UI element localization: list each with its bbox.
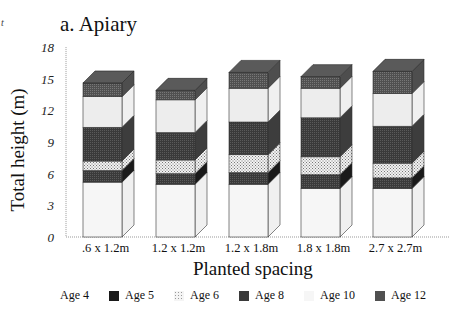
bar-segment-age-5 [229,173,268,185]
bar-segment-age-5 [156,174,195,185]
bar-1 [83,71,134,237]
chart-title: a. Apiary [60,12,137,37]
corner-mark: t [1,17,4,28]
bar-5 [373,59,424,237]
bars [83,59,424,237]
bar-segment-age-10 [229,88,268,122]
bar-segment-age-8 [83,127,122,161]
bar-segment-age-4 [156,184,195,237]
bar-segment-age-5 [373,178,412,189]
legend-label: Age 8 [255,288,284,303]
bar-4 [301,65,352,237]
bar-segment-age-4 [373,188,412,237]
legend-swatch [109,291,119,301]
bar-segment-age-12 [301,77,340,89]
bar-segment-age-8 [373,126,412,163]
legend-label: Age 12 [391,288,426,303]
bar-segment-age-12 [229,72,268,88]
bar-segment-age-6 [373,163,412,178]
legend-swatch [174,291,184,301]
legend-label: Age 5 [125,288,154,303]
legend-label: Age 6 [190,288,219,303]
legend-swatch [304,291,314,301]
bar-segment-age-10 [373,94,412,127]
bar-segment-age-12 [156,90,195,99]
y-tick-label: 15 [41,72,55,87]
bar-3 [229,60,280,237]
legend: Age 4Age 5Age 6Age 8Age 10Age 12 [44,288,446,303]
bar-2 [156,78,207,237]
x-tick-labels: .6 x 1.2m1.2 x 1.2m1.2 x 1.8m1.8 x 1.8m2… [82,241,423,255]
legend-item-age-5: Age 5 [109,288,154,303]
legend-item-age-12: Age 12 [375,288,426,303]
legend-swatch [375,291,385,301]
bar-segment-age-8 [301,118,340,157]
legend-swatch [44,291,54,301]
legend-label: Age 4 [60,288,89,303]
y-tick-label: 9 [48,135,55,150]
legend-item-age-4: Age 4 [44,288,89,303]
y-tick-label: 0 [48,230,55,245]
bar-segment-age-10 [301,88,340,118]
y-tick-label: 6 [48,167,55,182]
y-tick-label: 3 [47,198,55,213]
bar-segment-age-5 [301,175,340,189]
x-tick-label: 1.8 x 1.8m [297,241,351,255]
bar-segment-age-12 [373,71,412,93]
bar-segment-age-6 [156,160,195,174]
bar-segment-age-6 [83,161,122,170]
x-tick-label: 1.2 x 1.2m [152,241,206,255]
legend-item-age-10: Age 10 [304,288,355,303]
legend-item-age-6: Age 6 [174,288,219,303]
x-axis-label: Planted spacing [193,258,313,280]
bar-segment-age-6 [301,157,340,175]
y-axis-label: Total height (m) [7,88,29,211]
bar-segment-age-8 [229,122,268,155]
bar-segment-age-5 [83,171,122,183]
bar-segment-age-12 [83,83,122,97]
legend-swatch [239,291,249,301]
bar-segment-age-4 [83,182,122,237]
y-tick-label: 12 [41,103,55,118]
legend-label: Age 10 [320,288,355,303]
bar-segment-age-10 [83,97,122,128]
y-tick-label: 18 [41,40,55,55]
bar-segment-age-10 [156,100,195,133]
bar-segment-age-4 [301,188,340,237]
bar-segment-age-4 [229,184,268,237]
x-tick-label: .6 x 1.2m [82,241,130,255]
bar-segment-age-6 [229,155,268,173]
bar-segment-age-8 [156,133,195,160]
x-tick-label: 1.2 x 1.8m [225,241,279,255]
x-tick-label: 2.7 x 2.7m [369,241,423,255]
legend-item-age-8: Age 8 [239,288,284,303]
